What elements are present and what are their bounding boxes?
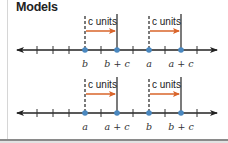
number-line-1: c units c units b b + c a a + c (17, 14, 217, 69)
point-a-plus-c (114, 110, 120, 116)
shift-label: c units (88, 79, 117, 90)
point-label: b + c (168, 121, 194, 132)
number-line-2: c units c units a a + c b b + c (17, 77, 217, 132)
point-b (146, 110, 152, 116)
point-label: b (82, 58, 88, 69)
shift-label: c units (152, 16, 181, 27)
point-b-plus-c (114, 47, 120, 53)
point-label: b + c (104, 58, 130, 69)
point-label: a + c (105, 121, 131, 132)
point-b (82, 47, 88, 53)
shift-label: c units (152, 79, 181, 90)
point-label: a (146, 58, 152, 69)
point-a-plus-c (178, 47, 184, 53)
point-label: a (82, 121, 88, 132)
shift-label: c units (88, 16, 117, 27)
point-label: a + c (169, 58, 195, 69)
number-line-models: c units c units b b + c a a + c c uni (0, 0, 228, 143)
point-label: b (146, 121, 152, 132)
point-a (146, 47, 152, 53)
point-a (82, 110, 88, 116)
point-b-plus-c (178, 110, 184, 116)
